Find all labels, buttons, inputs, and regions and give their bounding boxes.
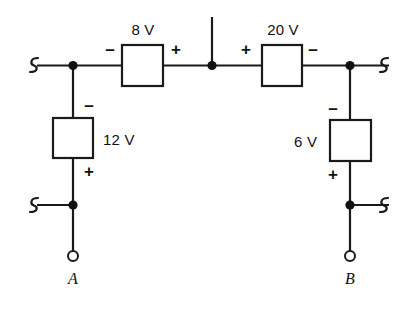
break-squiggle-top-left-icon — [30, 58, 38, 72]
polarity-6v-top: – — [328, 100, 337, 117]
polarity-8v-left: – — [105, 41, 114, 58]
source-label-6v: 6 V — [294, 134, 317, 149]
terminal-label-a: A — [68, 271, 78, 287]
terminal-label-b: B — [345, 271, 355, 287]
source-box-8v — [122, 45, 163, 86]
circuit-diagram: 8 V – + 20 V + – 12 V – + 6 V – + A B — [0, 0, 418, 311]
polarity-20v-right: – — [308, 41, 317, 58]
source-label-20v: 20 V — [267, 22, 299, 37]
source-box-20v — [262, 45, 302, 86]
polarity-20v-left: + — [241, 41, 251, 58]
break-squiggle-bottom-left-icon — [30, 198, 38, 212]
node-dot-top-right — [345, 61, 354, 70]
source-box-6v — [330, 120, 371, 161]
source-box-12v — [53, 118, 93, 158]
polarity-8v-right: + — [171, 41, 181, 58]
circuit-canvas — [0, 0, 418, 311]
terminal-ring-b — [345, 251, 355, 261]
node-dot-bottom-right — [345, 200, 354, 209]
polarity-6v-bottom: + — [328, 166, 338, 183]
source-label-8v: 8 V — [131, 22, 154, 37]
node-dot-top-left — [68, 61, 77, 70]
polarity-12v-bottom: + — [84, 163, 94, 180]
source-label-12v: 12 V — [103, 132, 135, 147]
polarity-12v-top: – — [84, 97, 93, 114]
node-dot-top-center — [207, 61, 216, 70]
node-dot-bottom-left — [68, 200, 77, 209]
terminal-ring-a — [68, 251, 78, 261]
